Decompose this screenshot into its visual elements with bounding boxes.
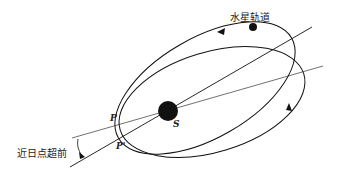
- orbit-direction-arrow-right: [286, 103, 292, 111]
- new-apsidal-line: [70, 27, 312, 167]
- precession-arrow-icon: [79, 152, 85, 159]
- perihelion-label: P: [110, 113, 117, 123]
- mercury-planet: [249, 23, 257, 31]
- precession-label: 近日点超前: [17, 145, 67, 160]
- sun: [158, 101, 178, 121]
- orbit-label: 水星轨道: [230, 9, 270, 24]
- sun-label: S: [173, 119, 180, 129]
- orbit-ellipse-new: [93, 0, 316, 181]
- new-perihelion-label: P': [116, 141, 126, 151]
- mercury-precession-diagram: 水星轨道 近日点超前 S P P': [0, 0, 339, 181]
- old-apsidal-line: [72, 66, 323, 138]
- orbit-ellipse-old: [106, 26, 319, 178]
- orbit-direction-arrow-top: [217, 28, 225, 35]
